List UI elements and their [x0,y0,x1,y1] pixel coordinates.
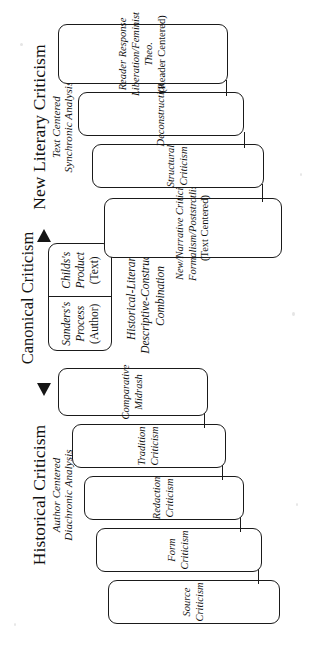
box-reader-response: Reader Response Liberation/Feminist Theo… [58,24,228,84]
connector-left-2 [240,516,241,532]
scan-speckle [292,312,295,316]
box-source-criticism-label: Source Criticism [181,582,207,621]
box-redaction-criticism-label: Redaction Criticism [151,477,177,520]
diagram-canvas: Historical Criticism Author Centered Dia… [0,0,311,646]
box-new-narrative-criticism: New/Narrative Criticism Formalism/Postst… [104,198,282,258]
box-new-narrative-line-1: New/Narrative Criticism [174,176,185,280]
historical-criticism-heading: Historical Criticism [30,400,50,590]
box-form-criticism-label: Form Criticism [166,530,192,569]
new-literary-criticism-heading: New Literary Criticism [30,22,50,232]
box-source-criticism: Source Criticism [108,580,280,624]
canonical-sanders-aspect: Process [74,306,86,342]
box-reader-response-paren: (Reader Centered) [156,15,167,92]
box-tradition-criticism: Tradition Criticism [72,424,226,468]
connector-right-1 [262,184,263,202]
canonical-sanders-focus: (Author) [88,304,100,344]
canonical-criticism-title: Canonical Criticism [18,218,38,378]
canonical-cell-childs: Childs's Product (Text) [49,244,111,298]
box-reader-response-line-2: Liberation/Feminist Theo. [130,12,154,96]
box-redaction-criticism: Redaction Criticism [84,476,244,520]
box-new-narrative-paren: (Text Centered) [199,195,210,261]
canonical-criticism-box: Sanders's Process (Author) Childs's Prod… [48,243,112,351]
connector-left-3 [222,464,223,480]
historical-criticism-heading-group: Historical Criticism Author Centered Dia… [30,400,74,590]
box-form-criticism: Form Criticism [96,528,262,572]
scan-speckle [14,623,16,626]
box-comparative-midrash: Comparative Midrash [58,368,208,416]
historical-criticism-subtitle-1: Author Centered [50,400,62,590]
box-tradition-criticism-label: Tradition Criticism [136,426,162,465]
box-comparative-midrash-label: Comparative Midrash [120,365,146,420]
historical-criticism-arrow-icon [37,383,51,396]
canonical-sanders-name: Sanders's [60,302,72,346]
scan-speckle [296,503,298,506]
connector-left-4 [204,412,205,428]
scan-speckle [300,173,302,176]
connector-left-1 [258,568,259,584]
box-new-narrative-line-2: Formalism/Poststrctlism. [187,175,198,281]
canonical-cell-sanders: Sanders's Process (Author) [49,298,111,351]
rotated-diagram-wrapper: Historical Criticism Author Centered Dia… [0,0,311,646]
canonical-childs-name: Childs's [60,252,72,289]
box-reader-response-line-1: Reader Response [117,18,128,91]
box-structural-criticism: Structural Criticism [92,144,264,188]
connector-right-2 [244,132,245,148]
box-deconstruction: Deconstruction [78,92,244,136]
canonical-childs-aspect: Product [74,252,86,289]
connector-right-3 [226,80,227,96]
canonical-childs-focus: (Text) [88,256,100,284]
box-structural-criticism-label: Structural Criticism [165,145,191,188]
scan-speckle [20,43,23,46]
